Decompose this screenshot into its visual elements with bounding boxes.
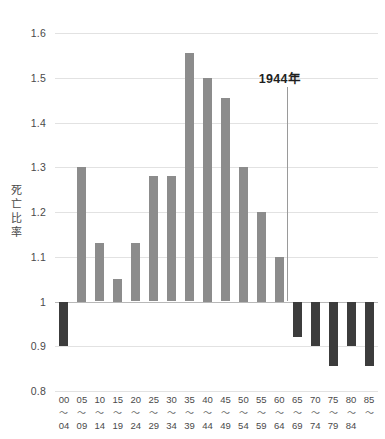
bar-50〜54[interactable] [239, 167, 248, 301]
bar-45〜49[interactable] [221, 98, 230, 302]
y-tick-label-1: 1 [40, 296, 46, 308]
x-axis-label-85〜: 85〜 [358, 393, 380, 419]
bar-00〜04[interactable] [59, 302, 68, 347]
bar-35〜39[interactable] [185, 53, 194, 301]
gridline-1.6 [55, 33, 378, 34]
gridline-1.5 [55, 78, 378, 79]
annotation-1944-label: 1944年 [259, 68, 301, 87]
y-tick-label-1.6: 1.6 [31, 27, 46, 39]
y-tick-label-0.8: 0.8 [31, 385, 46, 397]
bar-15〜19[interactable] [113, 279, 122, 301]
bar-30〜34[interactable] [167, 176, 176, 301]
y-axis-title-char-2: 亡 [9, 197, 23, 211]
bar-40〜44[interactable] [203, 78, 212, 302]
bar-55〜59[interactable] [257, 212, 266, 302]
bar-60〜64[interactable] [275, 257, 284, 302]
bar-75〜79[interactable] [329, 302, 338, 367]
y-tick-label-1.1: 1.1 [31, 251, 46, 263]
y-tick-label-0.9: 0.9 [31, 340, 46, 352]
mortality-ratio-bar-chart: 死 亡 比 率 1.61.51.41.31.21.110.90.8 1944年 … [0, 0, 385, 439]
y-axis-title-char-3: 比 [9, 211, 23, 225]
bar-65〜69[interactable] [293, 302, 302, 338]
bar-05〜09[interactable] [77, 167, 86, 301]
y-axis-title-char-1: 死 [9, 183, 23, 197]
bar-10〜14[interactable] [95, 243, 104, 301]
y-tick-label-1.2: 1.2 [31, 206, 46, 218]
gridline-1.2 [55, 212, 378, 213]
bar-25〜29[interactable] [149, 176, 158, 301]
bar-70〜74[interactable] [311, 302, 320, 347]
y-tick-label-1.4: 1.4 [31, 117, 46, 129]
x-label-range-tilde: 〜 [358, 407, 380, 419]
annotation-1944-line [287, 87, 288, 302]
bar-20〜24[interactable] [131, 243, 140, 301]
gridline-0.8 [55, 391, 378, 392]
gridline-1.4 [55, 123, 378, 124]
x-axis-labels: 00〜0405〜0910〜1415〜1920〜2425〜2930〜3435〜39… [55, 393, 378, 439]
bar-80〜84[interactable] [347, 302, 356, 347]
y-tick-label-1.3: 1.3 [31, 161, 46, 173]
x-label-end: 84 [340, 419, 362, 433]
x-label-start: 85 [358, 393, 380, 407]
y-axis-title-char-4: 率 [9, 225, 23, 239]
y-axis-title: 死 亡 比 率 [9, 183, 23, 239]
bar-85〜[interactable] [365, 302, 374, 367]
plot-area: 1.61.51.41.31.21.110.90.8 [55, 33, 378, 391]
gridline-1.3 [55, 167, 378, 168]
y-tick-label-1.5: 1.5 [31, 72, 46, 84]
